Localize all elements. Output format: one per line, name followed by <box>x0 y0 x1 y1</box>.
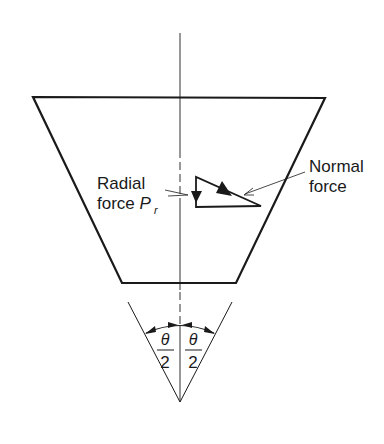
theta-left-denominator: 2 <box>160 353 169 372</box>
normal-leader-line <box>245 172 305 194</box>
belt-cross-section <box>33 97 325 283</box>
radial-leader-line <box>165 190 188 195</box>
arc-arrow-right-outer-icon <box>204 326 215 334</box>
radial-arrowhead-icon <box>191 191 202 203</box>
normal-arrowhead-icon <box>216 181 232 196</box>
theta-right-denominator: 2 <box>188 353 197 372</box>
arc-arrow-right-inner-icon <box>182 322 192 328</box>
normal-force-label-line2: force <box>309 177 347 196</box>
radial-force-subscript: r <box>154 204 159 216</box>
arc-arrow-left-inner-icon <box>168 322 178 328</box>
radial-leader-line2 <box>168 195 188 196</box>
groove-angle-left-line <box>128 302 180 402</box>
arc-arrow-left-outer-icon <box>145 326 156 334</box>
radial-force-label-line2: force P <box>97 194 152 213</box>
groove-angle-right-line <box>180 302 232 402</box>
normal-force-label-line1: Normal <box>309 157 364 176</box>
v-belt-force-diagram: Radial force P r Normal force θ 2 θ 2 <box>0 0 384 444</box>
theta-left-numerator: θ <box>161 331 170 348</box>
radial-force-label-line1: Radial <box>97 174 145 193</box>
theta-right-numerator: θ <box>189 331 198 348</box>
